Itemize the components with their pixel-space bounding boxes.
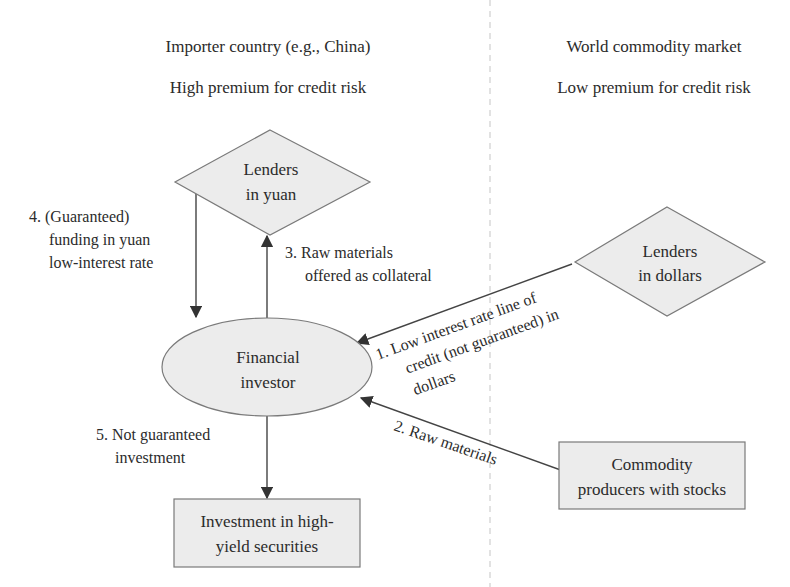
node-lenders-in-yuan-line2: in yuan (246, 185, 297, 204)
node-high-yield-line1: Investment in high- (200, 512, 333, 531)
left-column-subtitle: High premium for credit risk (170, 78, 367, 97)
node-financial-investor: Financial investor (162, 318, 372, 416)
edge-2-arrow (361, 398, 580, 477)
node-high-yield-line2: yield securities (216, 537, 318, 556)
edge-4-label-line1: 4. (Guaranteed) (29, 208, 129, 226)
node-lenders-in-dollars: Lenders in dollars (575, 207, 765, 316)
edge-1-label: 1. Low interest rate line of credit (not… (373, 284, 569, 407)
edge-4-label-line2: funding in yuan (49, 231, 150, 249)
node-commodity-producers-line2: producers with stocks (578, 480, 726, 499)
right-column-title: World commodity market (566, 37, 741, 56)
edge-3-label: 3. Raw materials offered as collateral (285, 244, 432, 284)
node-financial-investor-line2: investor (241, 373, 296, 392)
node-lenders-in-yuan-line1: Lenders (244, 160, 299, 179)
right-column-subtitle: Low premium for credit risk (557, 78, 751, 97)
edge-4-label: 4. (Guaranteed) funding in yuan low-inte… (29, 208, 153, 271)
node-lenders-in-yuan: Lenders in yuan (175, 130, 370, 235)
node-high-yield-securities: Investment in high- yield securities (174, 499, 360, 567)
node-lenders-in-dollars-line1: Lenders (643, 242, 698, 261)
diagram-canvas: Importer country (e.g., China) High prem… (0, 0, 790, 587)
edge-5-label-line1: 5. Not guaranteed (96, 426, 210, 444)
node-lenders-in-dollars-line2: in dollars (638, 266, 702, 285)
edge-4-label-line3: low-interest rate (49, 254, 153, 271)
edge-3-label-line2: offered as collateral (305, 267, 432, 284)
node-financial-investor-line1: Financial (236, 348, 300, 367)
edge-5-label-line2: investment (115, 449, 186, 466)
edge-3-label-line1: 3. Raw materials (285, 244, 393, 261)
node-commodity-producers: Commodity producers with stocks (559, 442, 745, 509)
left-column-title: Importer country (e.g., China) (166, 37, 371, 56)
edge-5-label: 5. Not guaranteed investment (96, 426, 210, 466)
node-commodity-producers-line1: Commodity (611, 455, 693, 474)
